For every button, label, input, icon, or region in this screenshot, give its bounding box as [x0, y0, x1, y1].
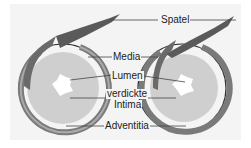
left-spatel: [56, 14, 120, 48]
label-lumen: Lumen: [111, 71, 144, 81]
label-adventitia: Adventitia: [104, 121, 150, 131]
label-media: Media: [112, 52, 141, 62]
label-intima: Intima: [113, 100, 142, 110]
label-verdickte: verdickte: [106, 89, 148, 99]
left-vessel: [19, 14, 120, 132]
endarterectomy-diagram: Spatel Media Lumen verdickte Intima Adve…: [0, 0, 251, 148]
label-spatel: Spatel: [160, 15, 190, 25]
right-vessel: [138, 16, 234, 132]
